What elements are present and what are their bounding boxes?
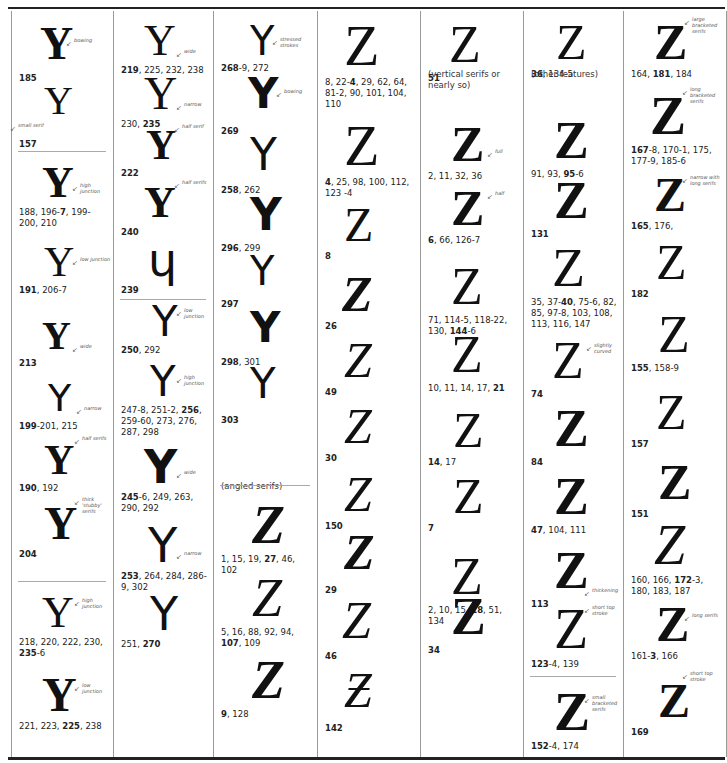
pointer-arrow-icon: ↙: [487, 193, 493, 200]
letter-z-glyph: Z: [656, 387, 687, 437]
annotation-note: half: [495, 191, 504, 197]
reference-numbers: 155, 158-9: [631, 363, 721, 374]
annotation-note: short top stroke: [690, 671, 724, 683]
pointer-arrow-icon: ↙: [66, 40, 72, 47]
letter-y-glyph: Y: [150, 591, 178, 637]
letter-y-glyph: Y: [144, 19, 176, 63]
reference-numbers: 6, 66, 126-7: [428, 235, 519, 246]
pointer-arrow-icon: ↙: [487, 151, 493, 158]
section-divider: [18, 151, 106, 152]
letter-y-glyph: Y: [148, 521, 177, 569]
pointer-arrow-icon: ↙: [684, 19, 690, 26]
letter-z-glyph: Z: [552, 241, 585, 295]
letter-y-glyph: Y: [250, 363, 276, 405]
annotation-note: long serifs: [692, 613, 718, 619]
column-4: Z8, 22-4, 29, 62, 64, 81-2, 90, 101, 104…: [317, 11, 421, 757]
letter-z-glyph: Z: [658, 457, 691, 507]
reference-numbers: 182: [631, 289, 721, 300]
reference-numbers: 30: [325, 453, 416, 464]
letter-z-glyph: Z: [344, 527, 375, 577]
letter-z-glyph: Z: [451, 261, 483, 313]
letter-y-glyph: Y: [44, 501, 77, 547]
reference-numbers: 204: [19, 549, 109, 560]
letter-z-glyph: Z: [554, 403, 589, 455]
pointer-arrow-icon: ↙: [176, 377, 182, 384]
letter-z-glyph: Z: [656, 599, 689, 649]
annotation-note: narrow: [184, 102, 202, 108]
pointer-arrow-icon: ↙: [74, 685, 80, 692]
annotation-note: small serif: [18, 123, 44, 129]
column-6: Z36, 134-5(other features)Z91, 93, 95-6Z…: [523, 11, 624, 757]
letter-z-glyph: Z: [451, 119, 484, 169]
pointer-arrow-icon: ↙: [682, 673, 688, 680]
reference-numbers: 247-8, 251-2, 256, 259-60, 273, 276, 287…: [121, 405, 209, 438]
section-divider: [530, 676, 616, 677]
column-7: Zlarge bracketed serifs↙164, 181, 184Zlo…: [623, 11, 727, 757]
reference-numbers: 34: [428, 645, 519, 656]
reference-numbers: 161-3, 166: [631, 651, 721, 662]
letter-z-glyph: Z: [344, 401, 372, 451]
letter-z-glyph: Z: [252, 498, 285, 552]
letter-z-glyph: Z: [654, 517, 685, 573]
pointer-arrow-icon: ↙: [272, 39, 278, 46]
reference-numbers: 167-8, 170-1, 175, 177-9, 185-6: [631, 145, 721, 167]
reference-numbers: 190, 192: [19, 483, 109, 494]
reference-numbers: 165, 176,: [631, 221, 721, 232]
reference-numbers: 303: [221, 415, 313, 426]
annotation-note: high junction: [82, 598, 112, 610]
pointer-arrow-icon: ↙: [584, 697, 590, 704]
bottom-rule: [8, 757, 725, 760]
reference-numbers: 74: [531, 389, 619, 400]
letter-y-glyph: Y: [250, 251, 274, 291]
letter-z-glyph: Z: [344, 117, 379, 175]
letter-y-glyph: Y: [42, 591, 74, 635]
pointer-arrow-icon: ↙: [584, 590, 590, 597]
letter-z-glyph: Z: [344, 17, 379, 75]
section-divider: [220, 485, 310, 486]
annotation-note: low junction: [80, 257, 110, 263]
pointer-arrow-icon: ↙: [76, 408, 82, 415]
letter-z-glyph: Z: [658, 677, 690, 725]
column-5: Z51(vertical serifs or nearly so)Zfull↙2…: [420, 11, 524, 757]
column-3: Ystressed strokes↙268-9, 272Ybowing↙269Y…: [213, 11, 318, 757]
annotation-note: full: [495, 149, 503, 155]
pointer-arrow-icon: ↙: [682, 89, 688, 96]
reference-numbers: 46: [325, 651, 416, 662]
letter-y-glyph: Y: [250, 133, 277, 177]
pointer-arrow-icon: ↙: [74, 600, 80, 607]
pointer-arrow-icon: ↙: [176, 553, 182, 560]
section-caption: (angled serifs): [221, 481, 313, 492]
pointer-arrow-icon: ↙: [74, 499, 80, 506]
reference-numbers: 47, 104, 111: [531, 525, 619, 536]
reference-numbers: 123-4, 139: [531, 659, 619, 670]
pointer-arrow-icon: ↙: [72, 346, 78, 353]
letter-y-glyph: Y: [150, 361, 176, 403]
annotation-note: thickening: [592, 588, 618, 594]
reference-numbers: 213: [19, 358, 109, 369]
letter-z-glyph: Z: [453, 405, 484, 455]
reference-numbers: 14, 17: [428, 457, 519, 468]
letter-z-glyph: Z: [552, 335, 584, 387]
annotation-note: slightly curved: [594, 343, 622, 355]
letter-z-glyph: Z: [451, 183, 484, 233]
top-rule: [8, 7, 725, 9]
letter-z-glyph: Z: [342, 595, 371, 647]
annotation-note: wide: [80, 344, 92, 350]
reference-numbers: 49: [325, 387, 416, 398]
annotation-note: thick 'stubby' serifs: [82, 497, 112, 514]
annotation-note: long bracketed serifs: [690, 87, 724, 104]
annotation-note: half serif: [182, 124, 204, 130]
annotation-note: short top stroke: [592, 605, 622, 617]
pointer-arrow-icon: ↙: [176, 310, 182, 317]
reference-numbers: 152-4, 174: [531, 741, 619, 752]
pointer-arrow-icon: ↙: [72, 259, 78, 266]
reference-numbers: 218, 220, 222, 230, 235-6: [19, 637, 109, 659]
letter-y-glyph: Y: [250, 193, 282, 237]
reference-numbers: 245-6, 249, 263, 290, 292: [121, 492, 209, 514]
reference-numbers: 164, 181, 184: [631, 69, 721, 80]
reference-numbers: 84: [531, 457, 619, 468]
pointer-arrow-icon: ↙: [682, 177, 688, 184]
letter-z-glyph: Z: [453, 471, 484, 521]
letter-z-glyph: Z: [449, 19, 481, 71]
letter-y-glyph: Y: [48, 379, 71, 417]
